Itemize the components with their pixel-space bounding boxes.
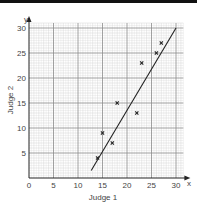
svg-text:15: 15	[17, 99, 26, 108]
y-axis-label: Judge 2	[6, 85, 15, 114]
line-of-best-fit	[91, 28, 176, 171]
svg-text:25: 25	[147, 181, 156, 190]
svg-text:5: 5	[51, 181, 56, 190]
svg-text:20: 20	[123, 181, 132, 190]
svg-text:25: 25	[17, 49, 26, 58]
x-axis-letter: x	[187, 179, 191, 188]
svg-text:10: 10	[17, 124, 26, 133]
x-axis-label: Judge 1	[89, 193, 118, 202]
svg-text:10: 10	[74, 181, 83, 190]
svg-text:20: 20	[17, 74, 26, 83]
y-axis-letter: y	[24, 15, 28, 24]
svg-text:30: 30	[17, 24, 26, 33]
minor-grid	[29, 23, 183, 178]
svg-text:30: 30	[172, 181, 181, 190]
svg-text:15: 15	[98, 181, 107, 190]
svg-text:0: 0	[27, 181, 32, 190]
scatter-chart: 05101520253051015202530 Judge 1 Judge 2 …	[0, 0, 197, 205]
svg-text:5: 5	[22, 149, 27, 158]
